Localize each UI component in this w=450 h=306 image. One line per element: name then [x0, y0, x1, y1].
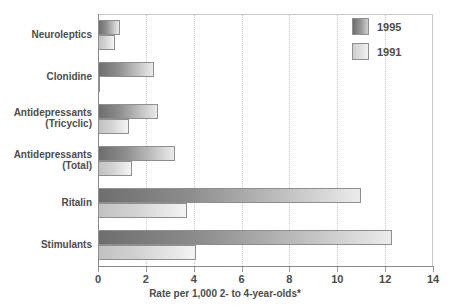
category-label-line: (Tricyclic) — [14, 118, 92, 129]
bar-antidepressants-total-1991[interactable] — [98, 161, 132, 176]
bar-ritalin-1995[interactable] — [98, 188, 361, 203]
category-label-line: Clonidine — [46, 71, 92, 82]
gridline-8 — [289, 14, 290, 266]
x-tick-label-4: 4 — [174, 273, 214, 285]
tick-mark-8 — [289, 267, 290, 272]
gridline-10 — [337, 14, 338, 266]
bar-stimulants-1995[interactable] — [98, 230, 392, 245]
tick-mark-0 — [98, 267, 99, 272]
x-axis-line — [98, 266, 434, 267]
bar-ritalin-1991[interactable] — [98, 203, 187, 218]
legend: 1995 1991 — [352, 14, 430, 64]
gridline-4 — [194, 14, 195, 266]
gridline-6 — [242, 14, 243, 266]
legend-item-1995[interactable]: 1995 — [352, 14, 430, 39]
bar-antidepressants-tricyclic-1995[interactable] — [98, 104, 158, 119]
bar-stimulants-1991[interactable] — [98, 245, 196, 260]
category-label-clonidine: Clonidine — [46, 71, 92, 82]
bar-antidepressants-total-1995[interactable] — [98, 146, 175, 161]
category-label-line: Neuroleptics — [31, 29, 92, 40]
category-label-line: Ritalin — [61, 197, 92, 208]
tick-mark-10 — [337, 267, 338, 272]
legend-label-1995: 1995 — [377, 21, 401, 33]
tick-mark-14 — [433, 267, 434, 272]
bar-chart: 02468101214 NeurolepticsClonidineAntidep… — [0, 0, 450, 306]
x-tick-label-10: 10 — [317, 273, 357, 285]
category-label-line: Antidepressants — [14, 149, 92, 160]
bar-clonidine-1991[interactable] — [98, 77, 100, 92]
x-tick-label-2: 2 — [126, 273, 166, 285]
bar-neuroleptics-1991[interactable] — [98, 35, 115, 50]
gridline-2 — [146, 14, 147, 266]
category-label-line: Stimulants — [41, 239, 92, 250]
legend-item-1991[interactable]: 1991 — [352, 39, 430, 64]
tick-mark-2 — [146, 267, 147, 272]
category-label-ritalin: Ritalin — [61, 197, 92, 208]
category-label-line: (Total) — [14, 160, 92, 171]
category-label-antidepressants-tricyclic: Antidepressants(Tricyclic) — [14, 107, 92, 129]
category-label-neuroleptics: Neuroleptics — [31, 29, 92, 40]
category-label-stimulants: Stimulants — [41, 239, 92, 250]
tick-mark-6 — [242, 267, 243, 272]
bar-clonidine-1995[interactable] — [98, 62, 154, 77]
x-tick-label-0: 0 — [78, 273, 118, 285]
category-label-antidepressants-total: Antidepressants(Total) — [14, 149, 92, 171]
x-tick-label-12: 12 — [365, 273, 405, 285]
legend-swatch-1995 — [352, 18, 369, 35]
category-label-line: Antidepressants — [14, 107, 92, 118]
bar-neuroleptics-1995[interactable] — [98, 20, 120, 35]
tick-mark-12 — [385, 267, 386, 272]
x-axis-caption: Rate per 1,000 2- to 4-year-olds* — [0, 288, 450, 299]
bar-antidepressants-tricyclic-1991[interactable] — [98, 119, 129, 134]
x-tick-label-14: 14 — [413, 273, 450, 285]
x-tick-label-8: 8 — [269, 273, 309, 285]
legend-label-1991: 1991 — [377, 46, 401, 58]
tick-mark-4 — [194, 267, 195, 272]
legend-swatch-1991 — [352, 43, 369, 60]
x-tick-label-6: 6 — [222, 273, 262, 285]
